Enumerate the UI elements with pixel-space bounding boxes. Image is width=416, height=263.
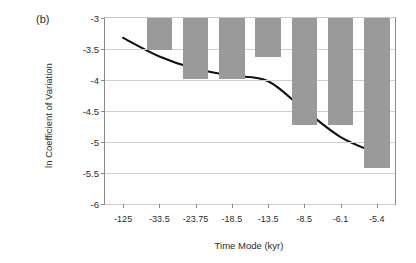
- y-axis-label: ln Coefficient of Variation: [43, 21, 54, 211]
- x-tick-mark: [196, 204, 197, 208]
- y-tick-label: -4.5: [83, 106, 99, 117]
- y-tick-mark: [101, 173, 105, 174]
- x-tick-label: -33.5: [149, 214, 170, 224]
- y-tick-label: -4: [91, 75, 99, 86]
- bar: [328, 18, 353, 125]
- bar: [364, 18, 389, 168]
- x-tick-mark: [341, 204, 342, 208]
- gridline: [105, 204, 395, 205]
- x-tick-mark: [377, 204, 378, 208]
- bar: [255, 18, 280, 57]
- x-tick-label: -18.5: [222, 214, 243, 224]
- x-tick-label: -125: [114, 214, 132, 224]
- x-tick-mark: [304, 204, 305, 208]
- bar: [183, 18, 208, 79]
- x-tick-mark: [232, 204, 233, 208]
- y-tick-mark: [101, 49, 105, 50]
- y-tick-mark: [101, 80, 105, 81]
- gridline: [105, 173, 395, 174]
- x-tick-mark: [268, 204, 269, 208]
- x-tick-label: -5.4: [369, 214, 385, 224]
- x-axis-label: Time Mode (kyr): [104, 240, 394, 251]
- x-tick-label: -6.1: [333, 214, 349, 224]
- gridline: [105, 142, 395, 143]
- x-tick-label: -23.75: [183, 214, 209, 224]
- y-tick-label: -6: [91, 199, 99, 210]
- y-tick-mark: [101, 18, 105, 19]
- x-tick-mark: [159, 204, 160, 208]
- y-tick-label: -5: [91, 137, 99, 148]
- y-tick-label: -3: [91, 13, 99, 24]
- bar: [219, 18, 244, 79]
- x-tick-mark: [123, 204, 124, 208]
- y-tick-mark: [101, 142, 105, 143]
- figure-panel-b: (b) ln Coefficient of Variation -3-3.5-4…: [0, 0, 416, 263]
- y-tick-label: -3.5: [83, 44, 99, 55]
- plot-area: -3-3.5-4-4.5-5-5.5-6-125-33.5-23.75-18.5…: [104, 17, 396, 205]
- bar: [147, 18, 172, 50]
- x-tick-label: -8.5: [297, 214, 313, 224]
- y-tick-label: -5.5: [83, 168, 99, 179]
- x-tick-label: -13.5: [258, 214, 279, 224]
- y-tick-mark: [101, 111, 105, 112]
- bar: [292, 18, 317, 125]
- y-tick-mark: [101, 204, 105, 205]
